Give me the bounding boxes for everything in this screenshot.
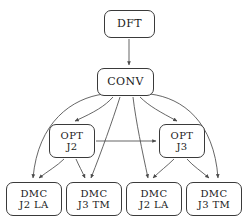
node-opt-j2[interactable]: OPT J2 xyxy=(49,124,95,158)
node-dmc-3-sublabel: J2 LA xyxy=(139,199,168,210)
edge-conv-opt-j3 xyxy=(140,97,177,121)
node-dft-label: DFT xyxy=(117,18,142,30)
node-dmc-2-sublabel: J3 TM xyxy=(78,199,110,210)
node-dmc-1-label: DMC xyxy=(20,188,47,199)
node-conv[interactable]: CONV xyxy=(97,68,154,96)
node-dmc-4[interactable]: DMC J3 TM xyxy=(186,182,242,216)
node-dmc-1-sublabel: J2 LA xyxy=(19,199,48,210)
node-dmc-1[interactable]: DMC J2 LA xyxy=(6,182,62,216)
node-dmc-3[interactable]: DMC J2 LA xyxy=(126,182,182,216)
node-conv-label: CONV xyxy=(107,76,144,88)
edge-opt-j2-dmc2 xyxy=(76,159,85,178)
edge-conv-dmc2 xyxy=(91,97,120,178)
node-dft[interactable]: DFT xyxy=(104,10,155,38)
edge-opt-j3-dmc4 xyxy=(187,159,209,178)
node-dmc-2-label: DMC xyxy=(80,188,107,199)
edge-conv-dmc3 xyxy=(133,97,148,178)
node-opt-j2-label: OPT xyxy=(61,130,84,141)
node-dmc-4-label: DMC xyxy=(200,188,227,199)
node-dmc-3-label: DMC xyxy=(140,188,167,199)
edge-opt-j2-dmc1 xyxy=(39,159,64,178)
edge-opt-j3-dmc3 xyxy=(153,159,174,178)
node-opt-j3-sublabel: J3 xyxy=(176,141,187,152)
node-opt-j2-sublabel: J2 xyxy=(66,141,77,152)
node-opt-j3[interactable]: OPT J3 xyxy=(159,124,205,158)
diagram-canvas: DFT CONV OPT J2 OPT J3 DMC J2 LA DMC J3 … xyxy=(0,0,248,222)
node-opt-j3-label: OPT xyxy=(171,130,194,141)
node-dmc-2[interactable]: DMC J3 TM xyxy=(66,182,122,216)
node-dmc-4-sublabel: J3 TM xyxy=(198,199,230,210)
